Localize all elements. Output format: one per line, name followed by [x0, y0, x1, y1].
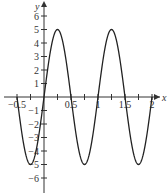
x-axis-label: x	[161, 92, 167, 103]
y-tick-label: 3	[34, 51, 39, 62]
x-axis-arrow-icon	[154, 94, 160, 100]
y-tick-label: 4	[34, 38, 39, 49]
y-axis-label: y	[34, 1, 40, 12]
y-tick-label: 2	[34, 65, 39, 76]
y-tick-label: 6	[34, 11, 39, 22]
y-tick-label: −6	[28, 173, 39, 184]
y-tick-label: −1	[28, 105, 39, 116]
y-axis-arrow-icon	[41, 1, 47, 7]
y-tick-label: −2	[28, 119, 39, 130]
sine-chart: −0.50.511.52−6−5−4−3−2−1123456 x y	[0, 0, 167, 193]
y-tick-label: 5	[34, 24, 39, 35]
y-tick-label: 1	[34, 78, 39, 89]
